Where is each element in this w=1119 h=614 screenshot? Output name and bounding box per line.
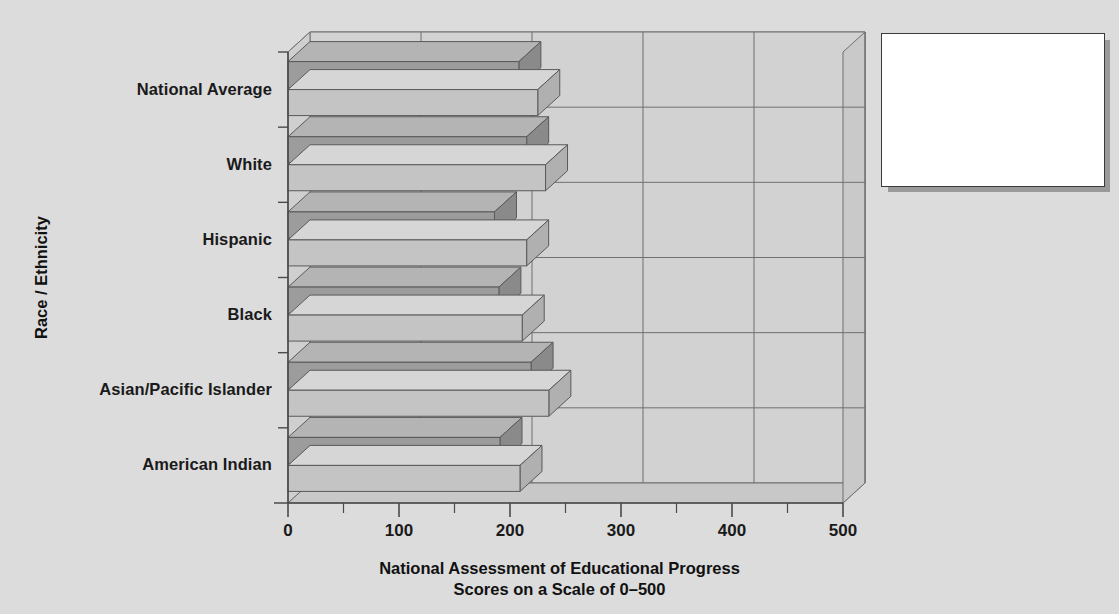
bar-mathematics-5: [288, 445, 542, 491]
bar-mathematics-2: [288, 220, 549, 266]
y-axis-title: Race / Ethnicity: [32, 216, 51, 339]
x-tick-label-3: 300: [607, 521, 635, 541]
bar-chart: National AverageWhiteHispanicBlackAsian/…: [0, 0, 1119, 614]
x-tick-label-1: 100: [385, 521, 413, 541]
bar-mathematics-1: [288, 145, 568, 191]
plot-right-wall: [843, 32, 865, 503]
category-label-0: National Average: [137, 79, 272, 98]
x-tick-label-5: 500: [829, 521, 857, 541]
x-tick-label-4: 400: [718, 521, 746, 541]
bar-mathematics-4: [288, 370, 571, 416]
x-tick-label-0: 0: [283, 521, 292, 541]
bar-mathematics-0: [288, 70, 560, 116]
legend: [881, 33, 1105, 187]
category-label-2: Hispanic: [202, 229, 272, 248]
x-tick-label-2: 200: [496, 521, 524, 541]
x-axis-title-line-1: National Assessment of Educational Progr…: [0, 558, 1119, 579]
category-label-5: American Indian: [142, 455, 272, 474]
x-axis-title: National Assessment of Educational Progr…: [0, 558, 1119, 600]
category-label-1: White: [227, 154, 272, 173]
category-label-3: Black: [227, 305, 272, 324]
x-axis-title-line-2: Scores on a Scale of 0–500: [0, 579, 1119, 600]
category-label-4: Asian/Pacific Islander: [99, 380, 272, 399]
bar-mathematics-3: [288, 295, 544, 341]
